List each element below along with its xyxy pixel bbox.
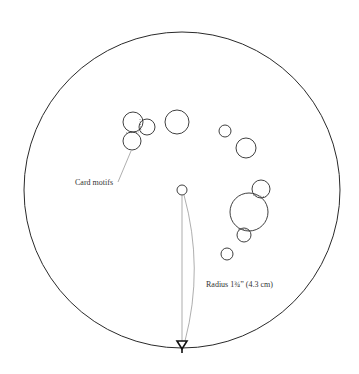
- motif-circle: [221, 248, 233, 260]
- overlap-dots: [126, 119, 266, 230]
- motif-circle: [123, 132, 141, 150]
- motif-circles: [123, 110, 270, 260]
- motif-circle: [219, 125, 231, 137]
- motif-circle: [252, 180, 270, 198]
- motif-circle: [236, 138, 256, 158]
- center-point: [177, 185, 187, 195]
- triangle-marker-icon: [177, 341, 187, 353]
- card-layout-diagram: [0, 0, 359, 374]
- radius-label: Radius 1¾” (4.3 cm): [206, 281, 273, 289]
- card-motifs-label: Card motifs: [75, 179, 113, 187]
- card-motifs-leader-line: [118, 151, 131, 182]
- motif-circle: [230, 193, 268, 231]
- motif-circle: [165, 110, 189, 134]
- radius-arc: [184, 195, 194, 341]
